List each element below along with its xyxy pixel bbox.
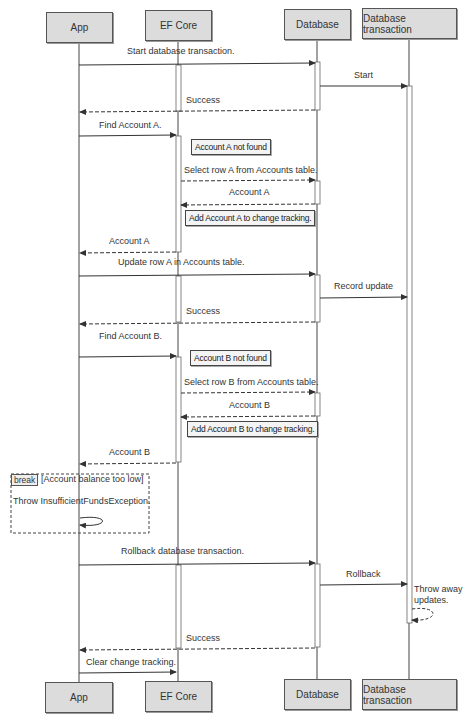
label-throw-away-line2: updates. (414, 595, 449, 605)
message-success-3 (80, 648, 315, 650)
message-find-account-b (79, 356, 176, 357)
participant-ef-core-bottom: EF Core (145, 681, 212, 712)
label-start: Start (354, 70, 373, 80)
label-success-1: Success (186, 95, 220, 105)
label-start-db-transaction: Start database transaction. (127, 46, 235, 56)
activation-ef-core-5 (176, 565, 181, 648)
label-success-2: Success (186, 306, 220, 316)
activation-db-transaction (407, 86, 412, 623)
label-success-3: Success (186, 633, 220, 643)
label-find-account-b: Find Account B. (99, 331, 162, 341)
message-account-a-to-ef (181, 204, 315, 205)
label-account-a-to-ef: Account A (229, 187, 270, 197)
participant-db-transaction-bottom: Database transaction (362, 679, 457, 710)
label-find-account-a: Find Account A. (99, 120, 162, 130)
activation-database-5 (315, 564, 320, 647)
message-success-1 (80, 110, 315, 112)
label-throw-insufficient-funds: Throw InsufficientFundsException. (13, 496, 150, 506)
message-record-update (320, 297, 407, 298)
label-rollback: Rollback (346, 569, 381, 579)
message-success-2 (80, 322, 315, 324)
note-account-a-not-found: Account A not found (191, 139, 271, 155)
participant-database-bottom: Database (284, 679, 351, 710)
label-select-row-b: Select row B from Accounts table. (184, 377, 319, 387)
activation-database-3 (315, 275, 320, 322)
note-add-account-a: Add Account A to change tracking. (185, 210, 315, 226)
message-account-b-to-ef (181, 416, 315, 417)
participant-ef-core-top: EF Core (145, 10, 212, 41)
activation-ef-core-2 (176, 136, 181, 252)
note-account-b-not-found: Account B not found (190, 350, 271, 366)
label-account-a-to-app: Account A (109, 236, 150, 246)
activation-database-4 (315, 393, 320, 416)
label-update-row-a: Update row A in Accounts table. (118, 257, 245, 267)
message-rollback (320, 584, 407, 585)
message-account-a-to-app (80, 252, 176, 253)
activation-ef-core-4 (176, 357, 181, 462)
label-select-row-a: Select row A from Accounts table. (184, 165, 318, 175)
participant-app-bottom: App (45, 682, 113, 713)
activation-ef-core-1 (176, 65, 181, 111)
participant-database-top: Database (284, 9, 351, 40)
activation-ef-core-3 (176, 276, 181, 322)
label-rollback-db-transaction: Rollback database transaction. (121, 546, 244, 556)
message-account-b-to-app (80, 463, 176, 464)
label-account-b-to-app: Account B (109, 447, 150, 457)
message-select-row-b (181, 392, 315, 393)
label-record-update: Record update (334, 281, 393, 291)
message-throw-self (80, 517, 103, 525)
break-fragment-tag: break (11, 474, 38, 486)
message-update-row-a (79, 274, 315, 276)
message-find-account-a (79, 135, 176, 136)
label-clear-change-tracking: Clear change tracking. (86, 657, 176, 667)
message-rollback-db-transaction (79, 563, 315, 565)
activation-database-2 (315, 181, 320, 204)
note-add-account-b: Add Account B to change tracking. (187, 421, 318, 437)
label-account-b-to-ef: Account B (229, 400, 270, 410)
break-fragment-guard: [Account balance too low] (41, 474, 144, 484)
message-clear-change-tracking (79, 672, 176, 673)
message-select-row-a (181, 180, 315, 181)
participant-app-top: App (46, 12, 113, 43)
message-start-db-transaction (79, 63, 315, 65)
participant-db-transaction-top: Database transaction (362, 8, 457, 39)
message-throw-away-self (412, 608, 433, 620)
activation-database-1 (315, 62, 320, 110)
label-throw-away-line1: Throw away (414, 584, 463, 594)
